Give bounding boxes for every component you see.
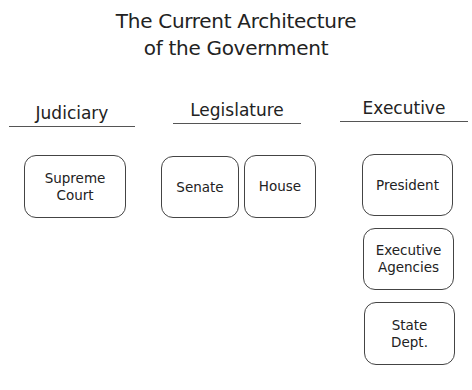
- branch-underline-legislature: [173, 123, 301, 124]
- node-house: House: [244, 155, 316, 218]
- branch-label-executive: Executive: [340, 98, 468, 118]
- node-state-dept: State Dept.: [364, 302, 455, 365]
- node-president: President: [362, 154, 453, 216]
- branch-label-legislature: Legislature: [173, 100, 301, 120]
- branch-underline-executive: [340, 121, 468, 122]
- diagram-title: The Current Architecture of the Governme…: [0, 8, 472, 62]
- branch-underline-judiciary: [9, 126, 135, 127]
- title-line-1: The Current Architecture: [0, 8, 472, 35]
- node-senate: Senate: [161, 156, 239, 218]
- title-line-2: of the Government: [0, 35, 472, 62]
- branch-label-judiciary: Judiciary: [9, 103, 135, 123]
- node-supreme-court: Supreme Court: [24, 155, 126, 218]
- node-executive-agencies: Executive Agencies: [363, 228, 454, 290]
